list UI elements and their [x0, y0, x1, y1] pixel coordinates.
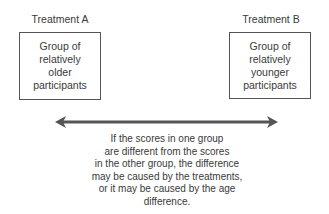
caption-text: If the scores in one group are different…: [60, 133, 274, 208]
